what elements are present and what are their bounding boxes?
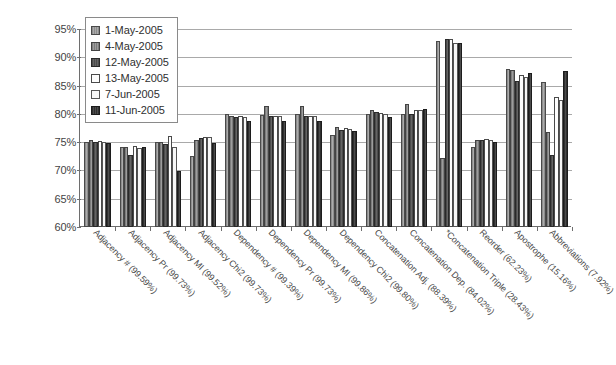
- legend-label: 1-May-2005: [105, 25, 163, 36]
- bar-group: [256, 29, 291, 227]
- legend-label: 7-Jun-2005: [105, 89, 160, 100]
- y-tick-label: 85%: [55, 81, 76, 92]
- bar: [563, 71, 567, 227]
- y-axis: 95%90%85%80%75%70%65%60%: [36, 24, 76, 232]
- x-tickmark: [572, 227, 573, 231]
- bar: [458, 43, 462, 227]
- x-tick-label-text: Abbreviations (7.92%): [548, 227, 616, 295]
- bar-group: [467, 29, 502, 227]
- bar: [247, 121, 251, 227]
- legend-item: 11-Jun-2005: [91, 102, 169, 118]
- bar-group: [326, 29, 361, 227]
- x-tick-label: Adjacency Pr (99.73%): [126, 227, 197, 298]
- bar-group: [361, 29, 396, 227]
- legend-item: 12-May-2005: [91, 54, 169, 70]
- x-tick-label-text: Adjacency # (99.59%): [91, 227, 159, 295]
- x-tick-label: Apostrophe (15.16%): [513, 227, 579, 293]
- y-tick-label: 80%: [55, 109, 76, 120]
- series-swatch-1: [91, 42, 100, 51]
- bar: [106, 143, 110, 227]
- legend-label: 13-May-2005: [105, 73, 169, 84]
- bar: [142, 147, 146, 227]
- y-tick-label: 90%: [55, 52, 76, 63]
- x-axis: Adjacency # (99.59%)Adjacency Pr (99.73%…: [79, 231, 571, 361]
- series-swatch-4: [91, 90, 100, 99]
- y-tickmark: [77, 227, 81, 228]
- bar: [423, 109, 427, 227]
- bar-group: [185, 29, 220, 227]
- x-tick-label: Abbreviations (7.92%): [548, 227, 616, 295]
- x-tick-label-text: Dependency MI (99.86%): [302, 227, 380, 305]
- legend-item: 4-May-2005: [91, 38, 169, 54]
- legend-label: 11-Jun-2005: [105, 105, 165, 116]
- series-swatch-0: [91, 26, 100, 35]
- legend-label: 12-May-2005: [105, 57, 169, 68]
- x-tick-label-text: Apostrophe (15.16%): [513, 227, 579, 293]
- bar: [388, 117, 392, 227]
- legend-label: 4-May-2005: [105, 41, 163, 52]
- bar: [317, 121, 321, 227]
- legend: 1-May-20054-May-200512-May-200513-May-20…: [85, 17, 178, 123]
- bar: [493, 142, 497, 227]
- y-tick-label: 70%: [55, 165, 76, 176]
- y-tick-label: 65%: [55, 194, 76, 205]
- series-swatch-2: [91, 58, 100, 67]
- bar-group: [502, 29, 537, 227]
- y-tick-label: 95%: [55, 24, 76, 35]
- legend-item: 1-May-2005: [91, 22, 169, 38]
- bar: [528, 73, 532, 227]
- bar-group: [396, 29, 431, 227]
- bar-group: [431, 29, 466, 227]
- x-tick-label: Adjacency # (99.59%): [91, 227, 159, 295]
- legend-item: 13-May-2005: [91, 70, 169, 86]
- series-swatch-3: [91, 74, 100, 83]
- bar: [352, 131, 356, 227]
- y-tick-label: 60%: [55, 222, 76, 233]
- bar: [282, 121, 286, 227]
- x-tick-label-text: Adjacency MI (99.52%): [161, 227, 232, 298]
- legend-item: 7-Jun-2005: [91, 86, 169, 102]
- y-tick-label: 75%: [55, 137, 76, 148]
- bar: [212, 143, 216, 227]
- x-tick-label-text: Dependency # (99.39%): [232, 227, 306, 301]
- x-tick-label-text: Adjacency Pr (99.73%): [126, 227, 197, 298]
- series-swatch-5: [91, 106, 100, 115]
- bar-group: [291, 29, 326, 227]
- bar: [177, 171, 181, 227]
- bar-group: [221, 29, 256, 227]
- bar-group: [537, 29, 572, 227]
- x-tick-label: Adjacency MI (99.52%): [161, 227, 232, 298]
- x-tick-label: Dependency MI (99.86%): [302, 227, 380, 305]
- x-tick-label: Dependency # (99.39%): [232, 227, 306, 301]
